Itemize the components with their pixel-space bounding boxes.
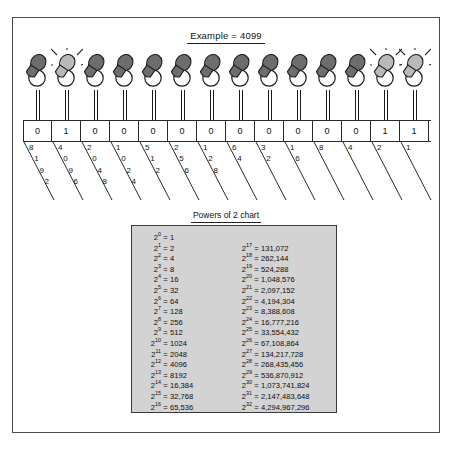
place-value-digit: 1 bbox=[290, 144, 294, 152]
equals-sign: = bbox=[161, 393, 170, 401]
bulb-glyph bbox=[167, 48, 199, 94]
power-expression: 211 bbox=[141, 351, 161, 359]
binary-digit-value: 0 bbox=[35, 126, 40, 136]
equals-sign: = bbox=[252, 298, 261, 306]
power-expression: 23 bbox=[141, 266, 161, 274]
power-expression: 20 bbox=[141, 234, 161, 242]
equals-sign: = bbox=[161, 351, 170, 359]
power-expression: 221 bbox=[232, 287, 252, 295]
power-expression: 218 bbox=[232, 255, 252, 263]
lightbulb-off[interactable] bbox=[81, 48, 110, 120]
bulb-wire bbox=[152, 90, 156, 120]
binary-digit-row: 01000000000011 bbox=[23, 120, 431, 142]
power-value: 16 bbox=[170, 276, 178, 284]
power-row: 20=1 bbox=[141, 234, 193, 245]
binary-digit-value: 0 bbox=[237, 126, 242, 136]
equals-sign: = bbox=[252, 255, 261, 263]
power-value: 8192 bbox=[170, 372, 187, 380]
power-value: 1 bbox=[170, 234, 174, 242]
binary-digit-cell[interactable]: 0 bbox=[255, 121, 284, 141]
place-value-digit: 4 bbox=[58, 144, 62, 152]
lightbulb-off[interactable] bbox=[23, 48, 52, 120]
lightbulb-off[interactable] bbox=[313, 48, 342, 120]
binary-digit-cell[interactable]: 1 bbox=[400, 121, 429, 141]
place-value-digit: 6 bbox=[74, 178, 78, 186]
lightbulb-off[interactable] bbox=[284, 48, 313, 120]
binary-digit-cell[interactable]: 0 bbox=[284, 121, 313, 141]
binary-digit-cell[interactable]: 0 bbox=[197, 121, 226, 141]
place-value-digit: 3 bbox=[261, 144, 265, 152]
bulb-glyph bbox=[80, 48, 112, 94]
equals-sign: = bbox=[252, 329, 261, 337]
lightbulb-off[interactable] bbox=[110, 48, 139, 120]
place-value-digit: 1 bbox=[406, 144, 410, 152]
lightbulb-off[interactable] bbox=[226, 48, 255, 120]
binary-digit-cell[interactable]: 0 bbox=[226, 121, 255, 141]
place-value-digit: 1 bbox=[116, 144, 120, 152]
binary-lightbulb-diagram: Example = 4099 01000000000011 8192409620… bbox=[12, 17, 440, 433]
bulb-glyph bbox=[341, 48, 373, 94]
power-value: 2,097,152 bbox=[261, 287, 295, 295]
place-value-digit: 0 bbox=[92, 155, 96, 163]
power-value: 262,144 bbox=[261, 255, 288, 263]
binary-digit-cell[interactable]: 0 bbox=[110, 121, 139, 141]
power-value: 2048 bbox=[170, 351, 187, 359]
power-expression: 28 bbox=[141, 319, 161, 327]
lightbulb-off[interactable] bbox=[197, 48, 226, 120]
lightbulb-on[interactable] bbox=[400, 48, 429, 120]
power-expression: 22 bbox=[141, 255, 161, 263]
bulb-wire bbox=[123, 90, 127, 120]
place-value-digit: 6 bbox=[232, 144, 236, 152]
power-expression: 210 bbox=[141, 340, 161, 348]
lightbulb-off[interactable] bbox=[139, 48, 168, 120]
lightbulb-off[interactable] bbox=[168, 48, 197, 120]
equals-sign: = bbox=[252, 372, 261, 380]
equals-sign: = bbox=[252, 276, 261, 284]
power-expression: 216 bbox=[141, 404, 161, 412]
place-value-digit: 2 bbox=[126, 167, 130, 175]
binary-digit-cell[interactable]: 0 bbox=[168, 121, 197, 141]
binary-digit-cell[interactable]: 1 bbox=[371, 121, 400, 141]
place-value-digit: 9 bbox=[39, 167, 43, 175]
binary-digit-cell[interactable]: 0 bbox=[313, 121, 342, 141]
power-expression: 25 bbox=[141, 287, 161, 295]
bulb-wire bbox=[239, 90, 243, 120]
binary-digit-cell[interactable]: 0 bbox=[342, 121, 371, 141]
power-value: 32 bbox=[170, 287, 178, 295]
place-value-digit: 1 bbox=[150, 155, 154, 163]
place-value-digit: 2 bbox=[266, 155, 270, 163]
bulb-wire bbox=[413, 90, 417, 120]
bulb-wire bbox=[65, 90, 69, 120]
binary-digit-cell[interactable]: 0 bbox=[23, 121, 52, 141]
bulb-wire bbox=[210, 90, 214, 120]
lightbulb-off[interactable] bbox=[255, 48, 284, 120]
binary-digit-value: 1 bbox=[411, 126, 416, 136]
binary-digit-value: 1 bbox=[63, 126, 68, 136]
lightbulb-off[interactable] bbox=[342, 48, 371, 120]
power-expression: 228 bbox=[232, 361, 252, 369]
equals-sign: = bbox=[161, 266, 170, 274]
power-row: 216=65,536 bbox=[141, 404, 193, 415]
power-expression: 226 bbox=[232, 340, 252, 348]
place-value-digit: 4 bbox=[237, 155, 241, 163]
power-value: 16,777,216 bbox=[261, 319, 299, 327]
equals-sign: = bbox=[252, 287, 261, 295]
lightbulb-on[interactable] bbox=[52, 48, 81, 120]
place-value-digit: 5 bbox=[179, 155, 183, 163]
power-expression: 24 bbox=[141, 276, 161, 284]
equals-sign: = bbox=[252, 340, 261, 348]
bulb-glyph bbox=[22, 48, 54, 94]
powers-chart-caption-text: Powers of 2 chart bbox=[191, 210, 261, 223]
binary-digit-cell[interactable]: 1 bbox=[52, 121, 81, 141]
binary-digit-cell[interactable]: 0 bbox=[81, 121, 110, 141]
power-value: 32,768 bbox=[170, 393, 193, 401]
powers-column-right: 217=131,072218=262,144219=524,288220=1,0… bbox=[232, 245, 310, 415]
power-value: 4096 bbox=[170, 361, 187, 369]
lightbulb-on[interactable] bbox=[371, 48, 400, 120]
power-expression: 232 bbox=[232, 404, 252, 412]
power-value: 64 bbox=[170, 298, 178, 306]
equals-sign: = bbox=[161, 234, 170, 242]
binary-digit-cell[interactable]: 0 bbox=[139, 121, 168, 141]
binary-digit-value: 0 bbox=[324, 126, 329, 136]
place-value-digit: 8 bbox=[319, 144, 323, 152]
